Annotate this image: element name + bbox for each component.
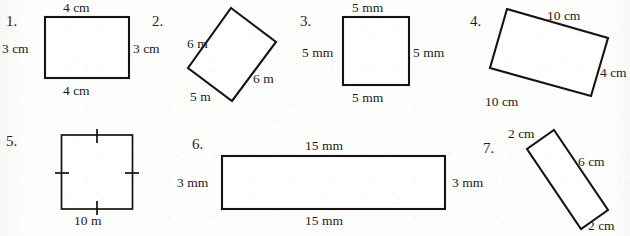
figure-4-label-right: 4 cm — [600, 66, 627, 80]
figure-6-label-bottom: 15 mm — [305, 214, 343, 228]
figure-5-label-bottom: 10 m — [74, 214, 101, 228]
worksheet-page: 1. 4 cm 3 cm 3 cm 4 cm 2. 6 m 6 m 5 m 3.… — [0, 0, 630, 236]
figure-3-label-top: 5 mm — [352, 1, 383, 15]
figure-3-number: 3. — [300, 14, 311, 29]
figure-4-number: 4. — [470, 14, 481, 29]
figure-5-square — [60, 132, 138, 212]
figure-1-rectangle — [44, 16, 130, 80]
figure-3-label-right: 5 mm — [413, 46, 444, 60]
figure-6-label-top: 15 mm — [305, 139, 343, 153]
figure-7-label-upper-right: 6 cm — [578, 155, 605, 169]
figure-3-square — [342, 16, 412, 88]
figure-2-label-lower-left: 5 m — [190, 90, 211, 104]
figure-2-number: 2. — [152, 14, 163, 29]
figure-5-number: 5. — [6, 134, 17, 149]
figure-2-label-lower-right: 6 m — [253, 72, 274, 86]
figure-7-label-upper-left: 2 cm — [508, 127, 535, 141]
figure-6-label-right: 3 mm — [452, 176, 483, 190]
figure-6-label-left: 3 mm — [177, 176, 208, 190]
figure-1-label-left: 3 cm — [2, 42, 29, 56]
figure-4-label-bottom: 10 cm — [485, 95, 518, 109]
figure-1-label-top: 4 cm — [63, 1, 90, 15]
figure-1-label-right: 3 cm — [133, 42, 160, 56]
figure-7-label-lower-right: 2 cm — [588, 219, 615, 233]
figure-3-label-left: 5 mm — [302, 46, 333, 60]
figure-1-label-bottom: 4 cm — [63, 84, 90, 98]
figure-2-label-upper-left: 6 m — [187, 37, 208, 51]
figure-1-number: 1. — [6, 14, 17, 29]
figure-6-number: 6. — [192, 137, 203, 152]
figure-4-label-top: 10 cm — [547, 9, 580, 23]
figure-3-label-bottom: 5 mm — [352, 91, 383, 105]
figure-7-number: 7. — [483, 141, 494, 156]
figure-6-rectangle — [221, 155, 447, 211]
